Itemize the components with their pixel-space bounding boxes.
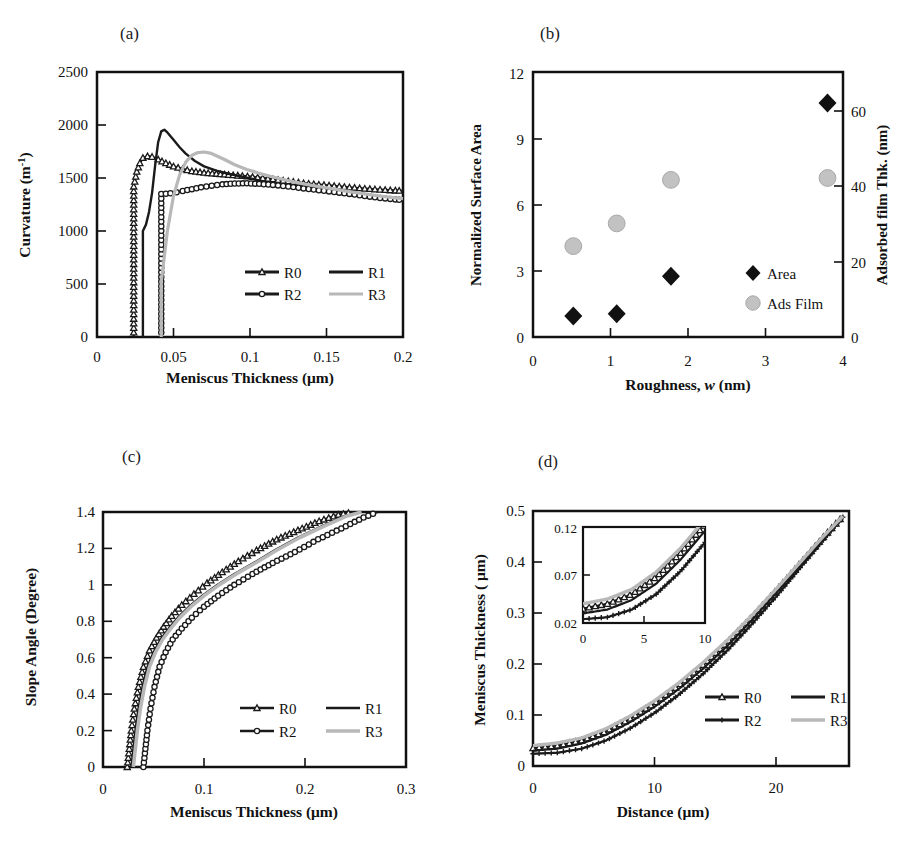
panel-a-ytick-2: 1000 [58,223,88,239]
legend-label-area: Area [767,266,796,282]
panel-c-label: (c) [122,447,141,467]
panel-c-legend: R0R1R2R3 [240,701,383,740]
panel-b-xtick-0: 0 [529,353,537,369]
panel-b-ytick-l-4: 12 [509,66,524,82]
panel-d-inset-ytick-2: 0.12 [554,521,577,536]
data-point-Ads Film [663,171,680,188]
panel-a-ytick-0: 0 [81,329,89,345]
panel-b-xtick-1: 1 [607,353,615,369]
panel-a-label: (a) [120,24,139,44]
panel-b-chart: Normalized Surface Area Adsorbed film Th… [453,0,913,430]
legend-label-ads-film: Ads Film [767,296,824,312]
legend-label-R1: R1 [368,265,386,281]
panel-c-xticks [204,758,305,767]
legend-label-R3: R3 [365,724,383,740]
panel-c: (c) Slope Angle (Degree) 0 0.2 0.4 0.6 0… [0,425,460,855]
panel-b-series-group [564,93,836,325]
panel-d-xticks [655,757,777,766]
panel-a-ytick-5: 2500 [58,64,88,80]
panel-d-yticks [533,562,542,715]
panel-a-xtick-4: 0.2 [394,349,413,365]
panel-a-ylabel: Curvature (m-1) [16,152,35,257]
panel-a-xtick-3: 0.15 [313,349,339,365]
panel-c-xtick-0: 0 [99,781,107,797]
panel-a-xtick-0: 0 [93,349,101,365]
panel-a-xtick-2: 0.1 [241,349,260,365]
panel-a-ytick-3: 1500 [58,170,88,186]
panel-c-yticks [103,548,112,730]
panel-b: (b) Normalized Surface Area Adsorbed fil… [453,0,913,430]
panel-b-xtick-4: 4 [839,353,847,369]
legend-label-R1: R1 [365,701,383,717]
panel-b-xticks [611,328,766,337]
legend-label-R0: R0 [279,701,297,717]
panel-a: (a) Curvature (m-1) 0 500 1000 1500 2000… [0,0,460,430]
panel-d-inset-xtick-1: 5 [641,631,648,646]
panel-c-ytick-6: 1.2 [76,540,95,556]
panel-c-ytick-3: 0.6 [76,650,95,666]
panel-d-inset-ytick-1: 0.07 [554,568,577,583]
panel-a-chart: Curvature (m-1) 0 500 1000 1500 2000 250… [0,0,460,430]
panel-b-ytick-l-0: 0 [517,330,525,346]
legend-label-R3: R3 [830,713,848,729]
panel-d-xtick-1: 10 [647,780,662,796]
panel-d-inset-series-group [580,519,708,621]
panel-c-ylabel: Slope Angle (Degree) [22,568,40,706]
panel-c-ytick-2: 0.4 [76,686,95,702]
panel-d-xtick-2: 20 [769,780,784,796]
data-point-Ads Film [608,215,625,232]
panel-a-ytick-4: 2000 [58,117,88,133]
panel-d-ytick-4: 0.4 [506,554,525,570]
panel-b-ylabel-right: Adsorbed film Thk. (nm) [874,125,891,286]
panel-c-xtick-3: 0.3 [397,781,416,797]
panel-b-yticks-right [834,111,843,262]
data-point-Area [662,267,680,286]
panel-d-legend: R0R1R2R3 [705,690,848,729]
panel-d-inset-ytick-0: 0.02 [554,616,577,631]
panel-a-yticks [97,125,106,284]
panel-d-ytick-5: 0.5 [506,503,525,519]
panel-d-xtick-0: 0 [529,780,537,796]
legend-label-R2: R2 [284,287,302,303]
panel-d-ytick-1: 0.1 [506,707,525,723]
panel-d-inset-xtick-0: 0 [580,631,587,646]
panel-a-series-group [131,130,403,337]
panel-d-label: (d) [538,452,558,472]
panel-d-ylabel: Meniscus Thickness ( μm) [471,554,489,726]
panel-b-ytick-r-0: 0 [851,330,859,346]
panel-d: (d) Meniscus Thickness ( μm) 0 0.1 0.2 0… [453,425,913,855]
legend-label-R2: R2 [744,713,762,729]
data-point-Ads Film [565,238,582,255]
panel-c-xtick-2: 0.2 [296,781,315,797]
panel-b-yticks-left [533,139,542,271]
panel-c-ytick-4: 0.8 [76,613,95,629]
panel-b-ytick-r-1: 20 [851,255,866,271]
panel-c-xtick-1: 0.1 [195,781,214,797]
panel-d-ytick-3: 0.3 [506,605,525,621]
panel-d-inset-xtick-2: 10 [699,631,712,646]
data-point-Ads Film [819,170,836,187]
panel-b-label: (b) [540,24,560,44]
legend-label-R2: R2 [279,724,297,740]
panel-c-xlabel: Meniscus Thickness (μm) [170,803,338,821]
panel-c-ytick-0: 0 [88,759,96,775]
panel-d-ytick-0: 0 [518,758,526,774]
panel-b-xlabel: Roughness, w (nm) [625,376,750,394]
data-point-Area [564,307,582,326]
panel-b-ytick-l-3: 9 [517,132,525,148]
data-point-Area [608,304,626,323]
panel-a-xtick-1: 0.05 [160,349,186,365]
panel-d-ytick-2: 0.2 [506,656,525,672]
panel-c-ytick-1: 0.2 [76,723,95,739]
panel-b-ytick-l-1: 3 [517,264,525,280]
legend-label-R0: R0 [744,690,762,706]
panel-b-ylabel-left: Normalized Surface Area [468,123,484,286]
legend-label-R0: R0 [284,265,302,281]
panel-b-legend: AreaAds Film [746,265,824,312]
panel-b-xtick-2: 2 [684,353,692,369]
panel-b-ytick-r-3: 60 [851,104,866,120]
panel-d-xlabel: Distance (μm) [617,803,710,821]
panel-b-xtick-3: 3 [762,353,770,369]
panel-a-ytick-1: 500 [66,276,89,292]
panel-d-inset: 0.12 0.07 0.02 0 5 10 [554,519,711,646]
